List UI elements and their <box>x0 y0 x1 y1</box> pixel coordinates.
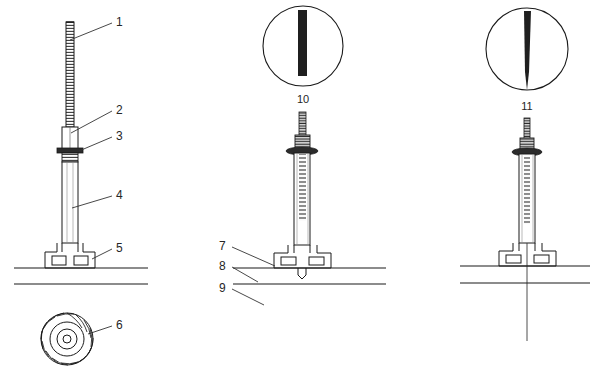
callout-label-5: 5 <box>116 241 123 255</box>
patent-figure-svg: 1 2 3 4 5 6 7 8 9 10 11 <box>0 0 590 371</box>
callout-label-7: 7 <box>219 239 226 253</box>
callout-label-8: 8 <box>219 259 226 273</box>
callout-label-3: 3 <box>116 129 123 143</box>
detail-caption-10: 10 <box>297 93 309 105</box>
detail-circle-tapered <box>486 8 568 90</box>
right-mast-core <box>524 154 530 224</box>
callout-label-6: 6 <box>116 318 123 332</box>
patent-figure-root: 1 2 3 4 5 6 7 8 9 10 11 <box>0 0 590 371</box>
callout-label-4: 4 <box>116 188 123 202</box>
collar-sleeve <box>62 153 78 162</box>
callout-label-1: 1 <box>116 15 123 29</box>
callout-label-9: 9 <box>219 281 226 295</box>
center-mast-core <box>299 153 306 221</box>
lower-mast-body <box>62 162 78 243</box>
upper-mast-tip <box>66 22 74 127</box>
detail-10-bar <box>298 10 307 76</box>
detail-circle-straight <box>263 6 343 86</box>
detail-caption-11: 11 <box>521 100 532 112</box>
upper-mast-body <box>66 22 74 127</box>
callout-label-2: 2 <box>116 103 123 117</box>
lower-mast-tube <box>62 162 78 243</box>
